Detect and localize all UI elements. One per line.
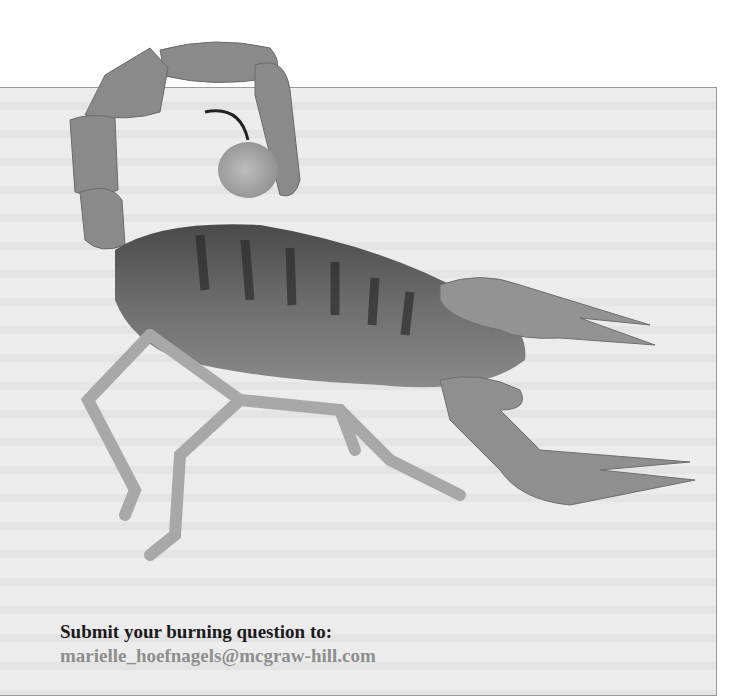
submit-question-prompt: Submit your burning question to: bbox=[60, 620, 376, 644]
scorpion-image bbox=[0, 0, 754, 699]
lower-pincer bbox=[440, 377, 695, 505]
stinger bbox=[205, 111, 248, 140]
tail bbox=[70, 42, 300, 249]
question-callout: Submit your burning question to: mariell… bbox=[60, 620, 376, 668]
contact-email-link[interactable]: marielle_hoefnagels@mcgraw-hill.com bbox=[60, 644, 376, 668]
